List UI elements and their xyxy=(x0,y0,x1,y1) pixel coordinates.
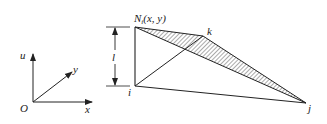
node-k-label: k xyxy=(207,25,213,37)
triangular-element xyxy=(135,27,306,103)
edge-i-k xyxy=(135,36,203,86)
hatched-shape-function-surface xyxy=(135,27,306,103)
u-axis-label: u xyxy=(20,49,26,61)
y-axis-label: y xyxy=(72,63,78,75)
node-j-label: j xyxy=(306,102,311,114)
height-dimension: l xyxy=(106,27,130,86)
origin-label: O xyxy=(20,102,28,114)
shape-function-diagram: u y x O l Ni(x, y) k i j xyxy=(0,0,327,124)
x-axis-label: x xyxy=(84,103,90,115)
dimension-label: l xyxy=(112,51,115,63)
node-i-label: i xyxy=(128,86,131,98)
coordinate-axes: u y x O xyxy=(20,49,92,115)
node-N-label: Ni(x, y) xyxy=(133,12,166,26)
y-axis xyxy=(33,72,72,102)
